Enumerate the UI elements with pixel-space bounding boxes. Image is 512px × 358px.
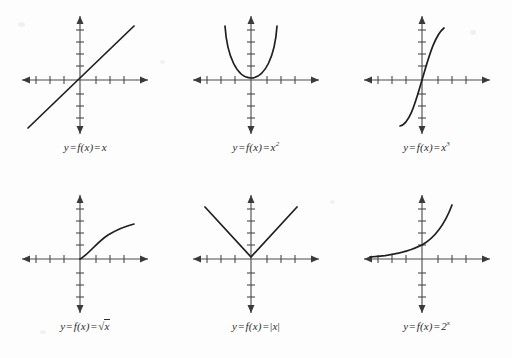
caption-exponent: x: [447, 319, 450, 327]
panel-cubic: y=f(x)=x3: [341, 0, 512, 179]
plot-sqrt: [10, 187, 160, 319]
function-graph-grid: y=f(x)=x: [0, 0, 512, 358]
curve-identity: [28, 26, 134, 128]
panel-absolute: y=f(x)=|x|: [171, 179, 342, 358]
caption-exponent: 3: [446, 140, 450, 148]
caption-fx: f(x): [417, 141, 433, 153]
caption-fx: f(x): [77, 141, 93, 153]
plot-absolute: [181, 187, 331, 319]
caption-eq1: =: [408, 320, 416, 332]
figure-page: y=f(x)=x: [0, 0, 512, 358]
caption-exponential: y=f(x)=2x: [403, 320, 450, 332]
caption-linear: y=f(x)=x: [64, 141, 107, 153]
caption-exponent: 2: [276, 140, 280, 148]
panel-linear: y=f(x)=x: [0, 0, 171, 179]
caption-eq1: =: [238, 141, 246, 153]
caption-fx: f(x): [74, 320, 90, 332]
panel-quadratic: y=f(x)=x2: [171, 0, 342, 179]
caption-eq2: =: [262, 320, 270, 332]
plot-cubic: [352, 8, 502, 140]
caption-eq2: =: [90, 320, 98, 332]
caption-absolute: y=f(x)=|x|: [232, 320, 280, 332]
plot-linear: [10, 8, 160, 140]
abs-bar-right: |: [278, 320, 280, 332]
caption-eq2: =: [93, 141, 101, 153]
plot-quadratic: [181, 8, 331, 140]
caption-eq2: =: [262, 141, 270, 153]
caption-expr: x: [102, 141, 107, 153]
caption-quadratic: y=f(x)=x2: [233, 141, 280, 153]
curve-exponential: [370, 205, 452, 257]
panel-sqrt: y=f(x)=√x: [0, 179, 171, 358]
plot-exponential: [352, 187, 502, 319]
curve-square-root: [80, 224, 134, 259]
caption-eq2: =: [433, 320, 441, 332]
caption-cubic: y=f(x)=x3: [403, 141, 450, 153]
caption-fx: f(x): [246, 141, 262, 153]
caption-sqrt: y=f(x)=√x: [60, 320, 110, 332]
caption-fx: f(x): [417, 320, 433, 332]
caption-eq1: =: [408, 141, 416, 153]
caption-fx: f(x): [246, 320, 262, 332]
caption-eq2: =: [433, 141, 441, 153]
caption-eq1: =: [237, 320, 245, 332]
panel-exponential: y=f(x)=2x: [341, 179, 512, 358]
caption-eq1: =: [65, 320, 73, 332]
caption-expr: x: [104, 319, 110, 332]
caption-y: y: [233, 141, 238, 153]
